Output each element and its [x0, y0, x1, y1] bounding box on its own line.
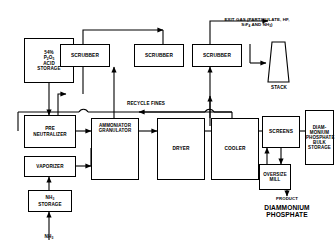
- box-oversize-mill: OVERSIZEMILL: [259, 164, 291, 190]
- box-scrubber-1-label: SCRUBBER: [61, 53, 109, 58]
- label-product-caption-text: PRODUCT: [276, 196, 298, 201]
- label-recycle-fines-text: RECYCLE FINES: [127, 101, 165, 106]
- box-bulk-storage-label: DIAM-MONIUMPHOSPHATEBULKSTORAGE: [306, 125, 333, 150]
- box-vaporizer-label: VAPORIZER: [25, 164, 75, 169]
- label-product-name-line1: DIAMMONIUM: [264, 204, 309, 211]
- label-product-name: DIAMMONIUM PHOSPHATE: [242, 204, 332, 219]
- label-exit-gas-line2: SiF4 AND NH3): [241, 22, 272, 27]
- box-vaporizer: VAPORIZER: [24, 156, 76, 177]
- box-scrubber-2-label: SCRUBBER: [135, 53, 183, 58]
- box-scrubber-1: SCRUBBER: [60, 44, 110, 67]
- box-scrubber-3-label: SCRUBBER: [193, 53, 241, 58]
- label-product-name-line2: PHOSPHATE: [266, 211, 307, 218]
- box-screens: SCREENS: [262, 116, 300, 148]
- box-screens-label: SCREENS: [263, 129, 299, 134]
- box-dryer: DRYER: [157, 118, 205, 180]
- box-pre-neutralizer-label: PRENEUTRALIZER: [25, 126, 75, 136]
- box-ammoniator-granulator-label: AMMONIATORGRANULATOR: [92, 123, 138, 133]
- process-flow-diagram: 54%P2O5ACIDSTORAGE PRENEUTRALIZER VAPORI…: [0, 0, 336, 249]
- label-stack-text: STACK: [271, 85, 287, 90]
- box-oversize-mill-label: OVERSIZEMILL: [260, 172, 290, 182]
- box-pre-neutralizer: PRENEUTRALIZER: [24, 115, 76, 148]
- box-nh3-storage: NH3STORAGE: [28, 190, 72, 212]
- label-product-caption: PRODUCT: [252, 197, 322, 202]
- box-dryer-label: DRYER: [158, 146, 204, 151]
- box-bulk-storage: DIAM-MONIUMPHOSPHATEBULKSTORAGE: [305, 110, 334, 165]
- label-stack: STACK: [258, 85, 300, 90]
- box-cooler-label: COOLER: [212, 146, 258, 151]
- box-ammoniator-granulator: AMMONIATORGRANULATOR: [91, 118, 139, 180]
- label-exit-gas: EXIT GAS (PARTICULATE, HF, SiF4 AND NH3): [196, 17, 318, 28]
- box-scrubber-3: SCRUBBER: [192, 44, 242, 67]
- stack-body: [268, 42, 289, 82]
- conn-scrubber1-to-header: [83, 30, 163, 44]
- label-nh3-feed: NH3: [34, 234, 64, 240]
- line-hop-left: [79, 109, 88, 112]
- box-scrubber-2: SCRUBBER: [134, 44, 184, 67]
- box-cooler: COOLER: [211, 118, 259, 180]
- label-nh3-feed-text: NH3: [45, 234, 54, 239]
- box-nh3-storage-label: NH3STORAGE: [29, 195, 71, 207]
- label-recycle-fines: RECYCLE FINES: [106, 101, 186, 106]
